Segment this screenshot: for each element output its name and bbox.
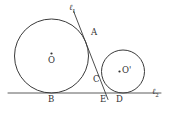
point-label-a: A — [91, 28, 97, 37]
point-label-d: D — [116, 95, 123, 104]
center-label-o: O — [48, 56, 55, 65]
geometry-canvas — [0, 0, 170, 113]
point-label-e: E — [100, 95, 106, 104]
point-label-c: C — [93, 75, 100, 84]
line-label-l1: ℓ1 — [69, 4, 76, 14]
line-label-l2: ℓ2 — [152, 88, 159, 98]
geometry-figure: ℓ1 ℓ2 A B C E D O O' — [0, 0, 170, 113]
point-label-b: B — [48, 95, 54, 104]
center-dot-o-prime — [118, 70, 120, 72]
tangent-line-l1 — [74, 11, 109, 100]
center-label-o-prime: O' — [122, 66, 131, 75]
